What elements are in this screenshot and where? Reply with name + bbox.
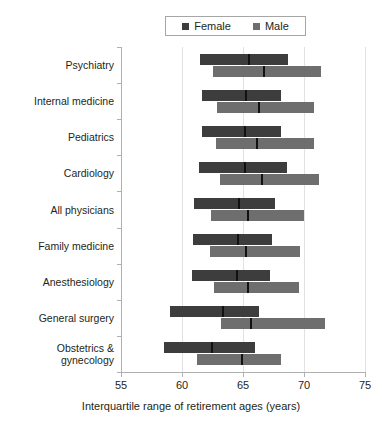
bar-female-obstetrics-gynecology bbox=[164, 342, 255, 353]
legend-swatch-male-icon bbox=[253, 23, 260, 30]
legend-swatch-female-icon bbox=[182, 23, 189, 30]
bar-male-general-surgery bbox=[221, 318, 325, 329]
x-tick-label-75: 75 bbox=[359, 379, 371, 391]
bar-male-family-medicine bbox=[210, 246, 300, 257]
x-tick-label-65: 65 bbox=[237, 379, 249, 391]
median-marker-female-pediatrics bbox=[244, 126, 246, 137]
x-tick-65 bbox=[243, 373, 244, 377]
median-marker-female-anesthesiology bbox=[236, 270, 238, 281]
bar-male-anesthesiology bbox=[214, 282, 299, 293]
median-marker-female-obstetrics-gynecology bbox=[211, 342, 213, 353]
median-marker-female-general-surgery bbox=[222, 306, 224, 317]
bar-male-internal-medicine bbox=[217, 102, 314, 113]
median-marker-male-general-surgery bbox=[250, 318, 252, 329]
x-tick-label-55: 55 bbox=[115, 379, 127, 391]
x-tick-60 bbox=[182, 373, 183, 377]
legend-item-male: Male bbox=[253, 21, 289, 32]
category-label-pediatrics: Pediatrics bbox=[68, 131, 114, 143]
bar-male-cardiology bbox=[220, 174, 319, 185]
category-label-all-physicians: All physicians bbox=[50, 204, 114, 216]
median-marker-male-pediatrics bbox=[256, 138, 258, 149]
bar-female-pediatrics bbox=[202, 126, 281, 137]
bar-female-cardiology bbox=[199, 162, 287, 173]
median-marker-male-psychiatry bbox=[263, 66, 265, 77]
chart-legend: Female Male bbox=[165, 16, 306, 36]
bar-female-family-medicine bbox=[193, 234, 272, 245]
bar-female-psychiatry bbox=[200, 54, 288, 65]
x-axis-line bbox=[121, 372, 366, 373]
bar-female-general-surgery bbox=[170, 306, 259, 317]
x-tick-75 bbox=[365, 373, 366, 377]
median-marker-female-psychiatry bbox=[248, 54, 250, 65]
gridline-75 bbox=[365, 47, 366, 372]
legend-label-male: Male bbox=[265, 21, 289, 32]
median-marker-female-family-medicine bbox=[237, 234, 239, 245]
median-marker-male-internal-medicine bbox=[258, 102, 260, 113]
category-label-general-surgery: General surgery bbox=[39, 312, 114, 324]
gridline-60 bbox=[182, 47, 183, 372]
median-marker-male-cardiology bbox=[261, 174, 263, 185]
bar-male-pediatrics bbox=[216, 138, 314, 149]
median-marker-female-internal-medicine bbox=[245, 90, 247, 101]
x-tick-70 bbox=[304, 373, 305, 377]
x-axis-title: Interquartile range of retirement ages (… bbox=[0, 400, 382, 413]
category-label-obstetrics-gynecology: Obstetrics & gynecology bbox=[57, 342, 114, 366]
legend-label-female: Female bbox=[194, 21, 231, 32]
category-label-anesthesiology: Anesthesiology bbox=[43, 276, 114, 288]
category-label-family-medicine: Family medicine bbox=[38, 240, 114, 252]
bar-male-psychiatry bbox=[213, 66, 321, 77]
x-tick-label-70: 70 bbox=[298, 379, 310, 391]
x-tick-55 bbox=[121, 373, 122, 377]
median-marker-female-cardiology bbox=[244, 162, 246, 173]
bar-female-internal-medicine bbox=[202, 90, 281, 101]
bar-male-all-physicians bbox=[211, 210, 304, 221]
bar-female-all-physicians bbox=[194, 198, 275, 209]
median-marker-female-all-physicians bbox=[238, 198, 240, 209]
median-marker-male-anesthesiology bbox=[247, 282, 249, 293]
category-label-psychiatry: Psychiatry bbox=[66, 59, 114, 71]
median-marker-male-family-medicine bbox=[245, 246, 247, 257]
y-axis-line bbox=[121, 47, 122, 373]
median-marker-male-all-physicians bbox=[247, 210, 249, 221]
x-tick-label-60: 60 bbox=[176, 379, 188, 391]
legend-item-female: Female bbox=[182, 21, 231, 32]
bar-male-obstetrics-gynecology bbox=[197, 354, 281, 365]
category-label-cardiology: Cardiology bbox=[64, 167, 114, 179]
retirement-age-chart: Female Male PsychiatryInternal medicineP… bbox=[0, 0, 382, 426]
bar-female-anesthesiology bbox=[192, 270, 270, 281]
median-marker-male-obstetrics-gynecology bbox=[241, 354, 243, 365]
category-label-internal-medicine: Internal medicine bbox=[34, 95, 114, 107]
